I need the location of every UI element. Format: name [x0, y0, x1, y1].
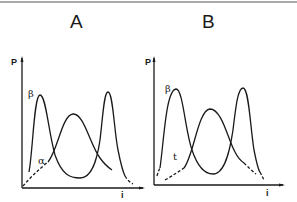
panel-a-x-arrow-icon [139, 187, 145, 190]
panel-b-beta-dashed-right [260, 172, 264, 180]
panel-a-beta-label: β [28, 89, 34, 99]
panel-a-x-axis-label: i [121, 191, 124, 200]
panel-b-plot [153, 56, 286, 187]
panel-a-alpha-label: α [38, 156, 45, 166]
panel-b-x-axis-label: i [266, 189, 269, 198]
panel-b-t-label: t [173, 152, 177, 162]
panel-b-beta-label: β [165, 84, 171, 94]
panel-b-title: B [202, 12, 215, 31]
panel-a-y-arrow-icon [21, 56, 24, 62]
panel-a-plot [21, 56, 146, 190]
figure-canvas [0, 0, 297, 202]
panel-b-t-dashed-right [244, 163, 256, 174]
panel-b-x-arrow-icon [279, 184, 285, 187]
panel-b-beta-dashed-left [157, 168, 160, 176]
panel-a-y-axis-label: P [11, 58, 17, 67]
panel-b-t-dashed [165, 168, 184, 180]
panel-a-title: A [70, 12, 83, 31]
panel-a-beta-tail [125, 176, 133, 184]
panel-b-y-arrow-icon [153, 56, 156, 62]
panel-b-y-axis-label: P [145, 58, 151, 67]
